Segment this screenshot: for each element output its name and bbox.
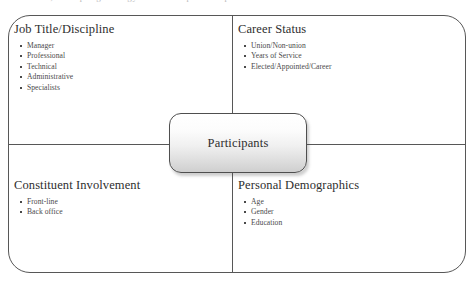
quadrant-item-list: Front-line Back office — [14, 197, 224, 218]
list-item-label: Back office — [27, 207, 63, 216]
list-item-label: Technical — [27, 62, 57, 71]
list-item-label: Education — [251, 218, 282, 227]
list-item: Education — [244, 218, 460, 228]
center-node-participants: Participants — [169, 113, 307, 173]
quadrant-title: Constituent Involvement — [14, 178, 224, 193]
list-item-label: Years of Service — [251, 51, 302, 60]
list-item-label: Elected/Appointed/Career — [251, 62, 331, 71]
bullet-icon — [20, 76, 22, 78]
list-item-label: Front-line — [27, 197, 58, 206]
bullet-icon — [20, 45, 22, 47]
list-item-label: Manager — [27, 41, 54, 50]
bullet-icon — [244, 66, 246, 68]
bullet-icon — [244, 211, 246, 213]
list-item: Specialists — [20, 83, 224, 93]
bullet-icon — [20, 87, 22, 89]
bullet-icon — [20, 55, 22, 57]
list-item: Years of Service — [244, 51, 460, 61]
clipped-body-text: the research, a sampling strategy was de… — [0, 0, 473, 7]
list-item: Professional — [20, 51, 224, 61]
list-item-label: Age — [251, 197, 264, 206]
list-item: Technical — [20, 62, 224, 72]
list-item: Elected/Appointed/Career — [244, 62, 460, 72]
quadrant-item-list: Age Gender Education — [238, 197, 460, 228]
quadrant-item-list: Union/Non-union Years of Service Elected… — [238, 41, 460, 72]
bullet-icon — [244, 201, 246, 203]
quadrant-personal-demographics: Personal Demographics Age Gender Educati… — [238, 178, 460, 270]
list-item: Administrative — [20, 72, 224, 82]
quadrant-constituent-involvement: Constituent Involvement Front-line Back … — [14, 178, 224, 270]
bullet-icon — [244, 55, 246, 57]
quadrant-title: Career Status — [238, 22, 460, 37]
quadrant-item-list: Manager Professional Technical Administr… — [14, 41, 224, 93]
list-item-label: Administrative — [27, 72, 73, 81]
bullet-icon — [20, 201, 22, 203]
bullet-icon — [20, 211, 22, 213]
list-item: Union/Non-union — [244, 41, 460, 51]
list-item-label: Union/Non-union — [251, 41, 306, 50]
list-item: Back office — [20, 207, 224, 217]
bullet-icon — [244, 222, 246, 224]
center-node-label: Participants — [208, 136, 269, 151]
list-item: Gender — [244, 207, 460, 217]
list-item: Front-line — [20, 197, 224, 207]
bullet-icon — [20, 66, 22, 68]
list-item: Manager — [20, 41, 224, 51]
list-item-label: Professional — [27, 51, 65, 60]
list-item: Age — [244, 197, 460, 207]
quadrant-title: Job Title/Discipline — [14, 22, 224, 37]
bullet-icon — [244, 45, 246, 47]
list-item-label: Gender — [251, 207, 274, 216]
list-item-label: Specialists — [27, 83, 60, 92]
quadrant-title: Personal Demographics — [238, 178, 460, 193]
